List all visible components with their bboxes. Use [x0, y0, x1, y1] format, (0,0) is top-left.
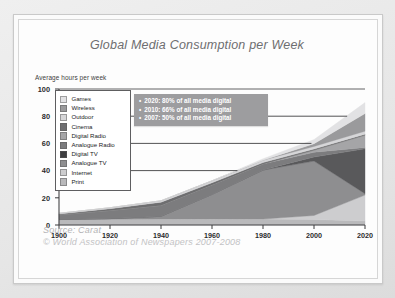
legend-swatch-icon: [60, 96, 67, 103]
legend-swatch-icon: [60, 132, 67, 139]
figure-background: Global Media Consumption per Week Averag…: [0, 0, 395, 298]
y-tick-label: 40: [28, 166, 50, 175]
legend-item-internet[interactable]: Internet: [60, 169, 126, 178]
legend-swatch-icon: [60, 178, 67, 185]
legend-item-label: Digital Radio: [71, 132, 106, 141]
legend-item-digital-tv[interactable]: Digital TV: [60, 150, 126, 159]
bullet-icon: •: [139, 114, 141, 123]
legend-item-wireless[interactable]: Wireless: [60, 104, 126, 113]
annotation-line: •2010: 66% of all media digital: [139, 106, 263, 115]
copyright-label: © World Association of Newspapers 2007-2…: [43, 237, 353, 247]
y-tick-label: 20: [28, 194, 50, 203]
legend-item-analogue-radio[interactable]: Analogue Radio: [60, 141, 126, 150]
bullet-icon: •: [139, 106, 141, 115]
y-tick-label: 100: [28, 85, 50, 94]
legend-item-label: Digital TV: [71, 150, 97, 159]
annotation-text: 2020: 80% of all media digital: [144, 97, 231, 106]
legend-swatch-icon: [60, 169, 67, 176]
legend-swatch-icon: [60, 151, 67, 158]
legend-item-label: Cinema: [71, 123, 92, 132]
legend-swatch-icon: [60, 114, 67, 121]
legend-item-digital-radio[interactable]: Digital Radio: [60, 132, 126, 141]
chart-canvas: Global Media Consumption per Week Averag…: [19, 20, 375, 276]
legend-item-cinema[interactable]: Cinema: [60, 123, 126, 132]
legend-item-label: Wireless: [71, 104, 94, 113]
figure-footer: Source: Carat © World Association of New…: [43, 225, 353, 247]
source-label: Source: Carat: [43, 225, 353, 235]
legend-item-label: Analogue TV: [71, 159, 106, 168]
legend-item-label: Analogue Radio: [71, 141, 114, 150]
y-tick-label: 60: [28, 139, 50, 148]
annotation-text: 2007: 50% of all media digital: [144, 114, 231, 123]
legend-item-label: Internet: [71, 169, 92, 178]
annotation-callout: •2020: 80% of all media digital•2010: 66…: [134, 94, 268, 126]
chart-legend: GamesWirelessOutdoorCinemaDigital RadioA…: [55, 90, 131, 191]
legend-item-label: Outdoor: [71, 113, 93, 122]
legend-swatch-icon: [60, 160, 67, 167]
annotation-line: •2007: 50% of all media digital: [139, 114, 263, 123]
legend-item-analogue-tv[interactable]: Analogue TV: [60, 159, 126, 168]
annotation-line: •2020: 80% of all media digital: [139, 97, 263, 106]
legend-item-games[interactable]: Games: [60, 95, 126, 104]
y-tick-label: 80: [28, 112, 50, 121]
legend-item-label: Games: [71, 95, 91, 104]
legend-item-print[interactable]: Print: [60, 178, 126, 187]
legend-swatch-icon: [60, 142, 67, 149]
legend-swatch-icon: [60, 123, 67, 130]
legend-item-label: Print: [71, 178, 84, 187]
bullet-icon: •: [139, 97, 141, 106]
annotation-text: 2010: 66% of all media digital: [144, 106, 231, 115]
legend-swatch-icon: [60, 105, 67, 112]
x-tick-label: 2020: [350, 231, 375, 240]
legend-item-outdoor[interactable]: Outdoor: [60, 113, 126, 122]
